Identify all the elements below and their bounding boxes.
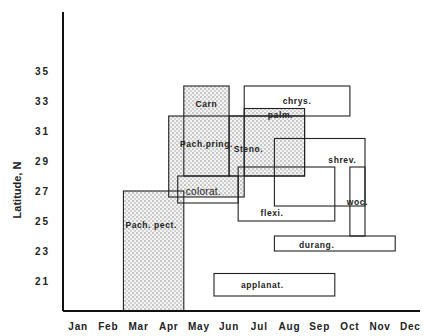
y-axis-label: Latitude, N (11, 162, 23, 219)
y-tick-label: 31 (35, 126, 50, 137)
box-label-palm: palm. (268, 110, 293, 120)
box-label-flexi: flexi. (260, 208, 283, 218)
x-tick-label: Mar (128, 321, 148, 332)
x-tick-label: Dec (400, 321, 421, 332)
range-box-durang (274, 236, 395, 251)
x-tick-label: Jun (219, 321, 239, 332)
x-tick-label: Aug (279, 321, 301, 332)
y-tick-label: 21 (35, 276, 50, 287)
latitude-month-range-chart: Pach. pect.Pach.pring.Carncolorat.Steno.… (0, 0, 434, 336)
x-tick-label: Oct (340, 321, 359, 332)
y-tick-label: 33 (35, 96, 50, 107)
x-tick-label: Apr (159, 321, 179, 332)
box-label-pach-pect: Pach. pect. (125, 220, 176, 230)
x-tick-label: Feb (98, 321, 118, 332)
box-label-carn: Carn (196, 99, 218, 109)
box-label-chrys: chrys. (283, 96, 312, 106)
y-tick-label: 25 (35, 216, 50, 227)
x-tick-label: Jul (251, 321, 268, 332)
x-tick-label: Sep (309, 321, 330, 332)
x-tick-label: Nov (369, 321, 390, 332)
box-label-woc: woc. (346, 197, 368, 207)
y-tick-label: 23 (35, 246, 50, 257)
range-fill-pach-pect (123, 191, 183, 311)
y-tick-label: 35 (35, 66, 50, 77)
box-label-colorat: colorat. (186, 186, 221, 197)
y-tick-label: 27 (35, 186, 50, 197)
box-label-applanat: applanat. (241, 280, 284, 290)
x-tick-label: Jan (68, 321, 88, 332)
box-label-shrev: shrev. (328, 155, 356, 165)
box-label-steno: Steno. (234, 144, 264, 154)
box-label-pach-pring: Pach.pring. (180, 139, 233, 149)
box-label-durang: durang. (299, 240, 334, 250)
y-tick-label: 29 (35, 156, 50, 167)
x-tick-label: May (188, 321, 210, 332)
